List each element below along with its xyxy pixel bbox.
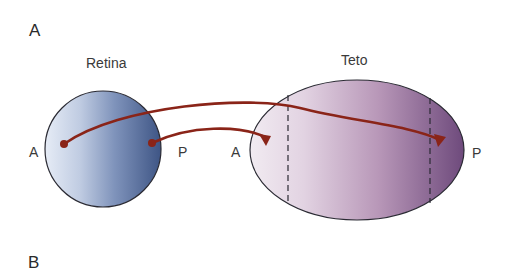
retina-shape — [45, 91, 161, 207]
tectum-shape — [250, 80, 464, 220]
retinotectal-diagram — [0, 0, 516, 271]
